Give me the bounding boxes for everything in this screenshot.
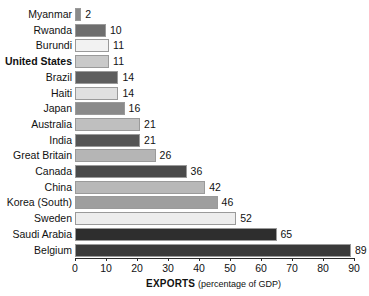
bar xyxy=(75,228,277,241)
bar-track: 26 xyxy=(75,149,369,162)
bar-track: 21 xyxy=(75,118,369,131)
bar-value-label: 14 xyxy=(118,71,134,84)
bar-track: 65 xyxy=(75,228,369,241)
x-axis-tick-label: 30 xyxy=(153,262,183,275)
bar-track: 46 xyxy=(75,196,369,209)
x-axis-title-strong: EXPORTS xyxy=(146,278,195,289)
bar-row: Saudi Arabia65 xyxy=(0,227,369,242)
category-label: Rwanda xyxy=(0,23,72,38)
bar xyxy=(75,244,351,257)
bar-row: Australia21 xyxy=(0,117,369,132)
bar xyxy=(75,134,140,147)
bar-value-label: 52 xyxy=(236,212,252,225)
x-axis-tick xyxy=(137,258,138,261)
bar-value-label: 26 xyxy=(156,149,172,162)
bar-row: Haiti14 xyxy=(0,86,369,101)
category-label: Australia xyxy=(0,117,72,132)
plot-area: Myanmar2Rwanda10Burundi11United States11… xyxy=(0,0,369,260)
x-axis-title: EXPORTS (percentage of GDP) xyxy=(0,278,369,290)
x-axis-tick xyxy=(261,258,262,261)
category-label: Great Britain xyxy=(0,148,72,163)
bar xyxy=(75,196,218,209)
bar-row: Sweden52 xyxy=(0,211,369,226)
bar xyxy=(75,24,106,37)
bar-row: China42 xyxy=(0,180,369,195)
bar xyxy=(75,118,140,131)
x-axis-tick xyxy=(168,258,169,261)
bar-track: 14 xyxy=(75,87,369,100)
bar-value-label: 2 xyxy=(81,8,91,21)
category-label: Canada xyxy=(0,164,72,179)
x-axis-tick-label: 80 xyxy=(308,262,338,275)
x-axis-tick-label: 40 xyxy=(184,262,214,275)
bar xyxy=(75,181,205,194)
bar-row: Burundi11 xyxy=(0,38,369,53)
x-axis-tick xyxy=(292,258,293,261)
x-axis-tick-label: 60 xyxy=(246,262,276,275)
bar-row: Japan16 xyxy=(0,101,369,116)
bar-value-label: 14 xyxy=(118,87,134,100)
bar-row: Belgium89 xyxy=(0,243,369,258)
bar-value-label: 11 xyxy=(109,39,124,52)
bar-value-label: 36 xyxy=(187,165,203,178)
bar xyxy=(75,102,125,115)
category-label: Japan xyxy=(0,101,72,116)
bar-track: 14 xyxy=(75,71,369,84)
bar xyxy=(75,212,236,225)
x-axis-tick xyxy=(323,258,324,261)
x-axis-tick xyxy=(199,258,200,261)
bar-track: 11 xyxy=(75,55,369,68)
bar-row: Rwanda10 xyxy=(0,23,369,38)
category-label: China xyxy=(0,180,72,195)
x-axis-tick-label: 50 xyxy=(215,262,245,275)
x-axis-tick xyxy=(106,258,107,261)
bar-row: Korea (South)46 xyxy=(0,195,369,210)
exports-bar-chart: Myanmar2Rwanda10Burundi11United States11… xyxy=(0,0,369,296)
x-axis-tick-label: 20 xyxy=(122,262,152,275)
category-label: India xyxy=(0,133,72,148)
bar xyxy=(75,149,156,162)
bar xyxy=(75,39,109,52)
bar xyxy=(75,71,118,84)
bar xyxy=(75,87,118,100)
x-axis-title-sub: (percentage of GDP) xyxy=(198,279,281,289)
bar-value-label: 46 xyxy=(218,196,234,209)
category-label: Myanmar xyxy=(0,7,72,22)
bar-track: 2 xyxy=(75,8,369,21)
bar-row: Canada36 xyxy=(0,164,369,179)
bar-track: 21 xyxy=(75,134,369,147)
bar-value-label: 89 xyxy=(351,244,367,257)
bar-value-label: 21 xyxy=(140,134,156,147)
bar-track: 89 xyxy=(75,244,369,257)
bar-track: 10 xyxy=(75,24,369,37)
category-label: United States xyxy=(0,54,72,69)
bar-value-label: 65 xyxy=(277,228,293,241)
bar-value-label: 11 xyxy=(109,55,124,68)
category-label: Burundi xyxy=(0,38,72,53)
bar-track: 52 xyxy=(75,212,369,225)
category-label: Belgium xyxy=(0,243,72,258)
x-axis-tick-label: 70 xyxy=(277,262,307,275)
category-label: Sweden xyxy=(0,211,72,226)
x-axis-tick xyxy=(75,258,76,261)
x-axis-tick xyxy=(230,258,231,261)
bar-value-label: 21 xyxy=(140,118,156,131)
bar-row: United States11 xyxy=(0,54,369,69)
bar-row: Great Britain26 xyxy=(0,148,369,163)
bar-row: Myanmar2 xyxy=(0,7,369,22)
bar-track: 11 xyxy=(75,39,369,52)
bar xyxy=(75,165,187,178)
x-axis-tick-label: 10 xyxy=(91,262,121,275)
x-axis-tick xyxy=(354,258,355,261)
x-axis-line xyxy=(75,258,354,259)
bar-value-label: 42 xyxy=(205,181,221,194)
bar-row: Brazil14 xyxy=(0,70,369,85)
bar-value-label: 16 xyxy=(125,102,141,115)
x-axis-tick-label: 0 xyxy=(60,262,90,275)
category-label: Brazil xyxy=(0,70,72,85)
category-label: Haiti xyxy=(0,86,72,101)
bar-row: India21 xyxy=(0,133,369,148)
category-label: Saudi Arabia xyxy=(0,227,72,242)
bar-track: 36 xyxy=(75,165,369,178)
bar-track: 16 xyxy=(75,102,369,115)
